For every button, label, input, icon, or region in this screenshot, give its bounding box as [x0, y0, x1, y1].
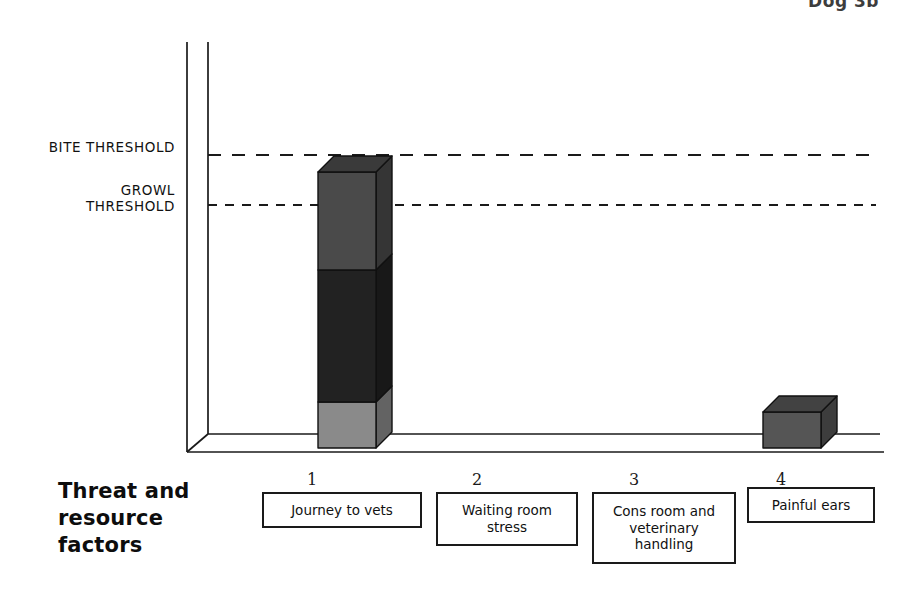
- category-label-box-4[interactable]: Painful ears: [747, 487, 875, 523]
- category-number-2: 2: [447, 470, 507, 489]
- bar-1-middle-segment-front: [318, 270, 376, 402]
- bar-1-top-segment-front: [318, 172, 376, 270]
- bar-4-single-segment-front: [763, 412, 821, 448]
- category-number-3: 3: [604, 470, 664, 489]
- x-axis-title: Threat and resource factors: [58, 478, 248, 559]
- bar-1-bottom-segment-front: [318, 402, 376, 448]
- bar-1-top-segment-side: [376, 156, 392, 270]
- category-label-box-3[interactable]: Cons room and veterinary handling: [592, 492, 736, 564]
- category-number-1: 1: [282, 470, 342, 489]
- chart-figure: Dog 3b BITE THRESHOLD GROWL: [0, 0, 911, 602]
- category-label-box-1[interactable]: Journey to vets: [262, 492, 422, 528]
- bar-1-middle-segment-side: [376, 254, 392, 402]
- category-label-box-2[interactable]: Waiting room stress: [436, 492, 578, 546]
